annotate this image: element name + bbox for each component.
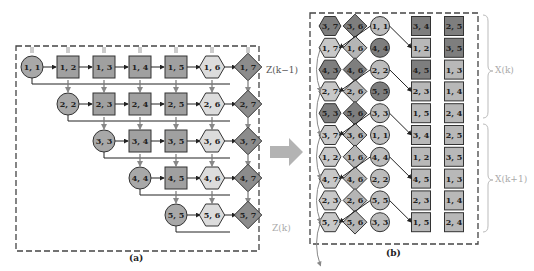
node-label: 1, 4 bbox=[446, 86, 463, 96]
node-label: 3, 6 bbox=[347, 130, 364, 140]
b-node-4-6: 3, 5 bbox=[445, 147, 464, 166]
node-label: 4, 7 bbox=[322, 174, 339, 184]
node-label: 2, 3 bbox=[413, 86, 430, 96]
b-node-2-7: 2, 2 bbox=[371, 169, 390, 188]
node-label: 1, 5 bbox=[413, 108, 430, 118]
b-node-0-1: 1, 7 bbox=[319, 38, 341, 57]
node-label: 3, 5 bbox=[168, 136, 185, 146]
panel-b: 3, 71, 74, 32, 75, 33, 71, 24, 72, 35, 7… bbox=[317, 14, 464, 266]
node-label: 4, 5 bbox=[413, 65, 430, 75]
node-label: 3, 3 bbox=[372, 108, 389, 118]
node-label: 5, 7 bbox=[322, 217, 339, 227]
b-node-1-9: 5, 6 bbox=[343, 210, 367, 234]
node-label: 2, 7 bbox=[322, 86, 339, 96]
b-node-3-6: 1, 2 bbox=[412, 147, 431, 166]
node-label: 2, 2 bbox=[60, 99, 77, 109]
node-4-7: 4, 7 bbox=[234, 164, 262, 192]
node-4-6: 4, 6 bbox=[199, 167, 224, 189]
b-node-0-0: 3, 7 bbox=[319, 17, 341, 36]
node-label: 2, 4 bbox=[132, 99, 149, 109]
b-node-3-4: 1, 5 bbox=[412, 104, 431, 123]
label-x-k: X(k) bbox=[495, 65, 514, 75]
node-label: 2, 6 bbox=[347, 195, 364, 205]
b-node-4-2: 1, 3 bbox=[445, 60, 464, 79]
label-z-k: Z(k) bbox=[272, 223, 291, 233]
node-label: 3, 3 bbox=[96, 136, 113, 146]
b-node-3-0: 3, 4 bbox=[412, 17, 431, 36]
node-label: 1, 1 bbox=[24, 62, 41, 72]
b-node-0-5: 3, 7 bbox=[319, 126, 341, 145]
node-label: 1, 3 bbox=[96, 62, 113, 72]
node-1-7: 1, 7 bbox=[234, 53, 262, 81]
b-node-4-8: 1, 4 bbox=[445, 191, 464, 210]
node-label: 2, 3 bbox=[322, 195, 339, 205]
caption-a: (a) bbox=[129, 253, 143, 263]
b-node-0-2: 4, 3 bbox=[319, 60, 341, 79]
b-node-1-4: 5, 6 bbox=[343, 101, 367, 125]
node-label: 5, 5 bbox=[372, 86, 389, 96]
node-1-4: 1, 4 bbox=[129, 56, 151, 78]
b-node-2-4: 3, 3 bbox=[371, 104, 390, 123]
node-label: 4, 5 bbox=[413, 174, 430, 184]
transform-arrow-icon bbox=[270, 138, 303, 166]
b-node-0-8: 2, 3 bbox=[319, 191, 341, 210]
b-node-3-9: 1, 5 bbox=[412, 213, 431, 232]
label-x-k-plus-1: X(k+1) bbox=[495, 174, 527, 184]
b-node-4-5: 2, 5 bbox=[445, 126, 464, 145]
node-2-3: 2, 3 bbox=[93, 93, 115, 115]
node-label: 3, 4 bbox=[132, 136, 149, 146]
b-node-0-4: 5, 3 bbox=[319, 104, 341, 123]
node-label: 5, 6 bbox=[347, 108, 364, 118]
node-1-3: 1, 3 bbox=[93, 56, 115, 78]
node-label: 1, 2 bbox=[413, 43, 430, 53]
node-label: 2, 6 bbox=[347, 86, 364, 96]
node-3-4: 3, 4 bbox=[129, 130, 151, 152]
b-node-1-5: 3, 6 bbox=[343, 123, 367, 147]
node-label: 1, 4 bbox=[446, 195, 463, 205]
node-label: 4, 3 bbox=[322, 65, 339, 75]
node-1-6: 1, 6 bbox=[199, 56, 224, 78]
node-3-7: 3, 7 bbox=[234, 127, 262, 155]
node-label: 5, 6 bbox=[204, 210, 221, 220]
node-label: 1, 5 bbox=[413, 217, 430, 227]
node-1-2: 1, 2 bbox=[57, 56, 79, 78]
b-node-4-4: 2, 4 bbox=[445, 104, 464, 123]
b-node-1-7: 4, 6 bbox=[343, 167, 367, 191]
node-label: 4, 6 bbox=[347, 65, 364, 75]
node-label: 2, 4 bbox=[446, 217, 463, 227]
node-label: 4, 4 bbox=[372, 43, 389, 53]
node-label: 3, 7 bbox=[322, 21, 339, 31]
b-node-4-3: 1, 4 bbox=[445, 82, 464, 101]
node-label: 1, 6 bbox=[347, 43, 364, 53]
b-node-2-0: 1, 1 bbox=[371, 17, 390, 36]
node-label: 5, 3 bbox=[322, 108, 339, 118]
node-label: 4, 4 bbox=[132, 173, 149, 183]
b-node-4-1: 3, 5 bbox=[445, 38, 464, 57]
b-node-0-6: 1, 2 bbox=[319, 147, 341, 166]
node-label: 1, 1 bbox=[372, 21, 389, 31]
node-label: 1, 3 bbox=[446, 65, 463, 75]
label-z-k-minus-1: Z(k−1) bbox=[266, 65, 298, 75]
node-label: 5, 6 bbox=[347, 217, 364, 227]
node-label: 2, 5 bbox=[446, 130, 463, 140]
node-label: 3, 5 bbox=[446, 43, 463, 53]
b-node-0-9: 5, 7 bbox=[319, 213, 341, 232]
b-node-3-5: 3, 4 bbox=[412, 126, 431, 145]
node-label: 2, 6 bbox=[204, 99, 221, 109]
node-label: 2, 5 bbox=[168, 99, 185, 109]
node-label: 1, 7 bbox=[322, 43, 339, 53]
b-node-3-7: 4, 5 bbox=[412, 169, 431, 188]
node-label: 1, 2 bbox=[322, 152, 339, 162]
b-node-1-3: 2, 6 bbox=[343, 80, 367, 104]
node-label: 1, 7 bbox=[240, 62, 257, 72]
node-label: 4, 5 bbox=[168, 173, 185, 183]
b-node-1-2: 4, 6 bbox=[343, 58, 367, 82]
panel-a: 1, 11, 21, 31, 41, 51, 61, 72, 22, 32, 4… bbox=[21, 47, 262, 232]
b-node-2-6: 4, 4 bbox=[371, 147, 390, 166]
node-label: 2, 7 bbox=[240, 99, 257, 109]
node-label: 5, 5 bbox=[168, 210, 185, 220]
node-2-5: 2, 5 bbox=[165, 93, 187, 115]
node-label: 2, 2 bbox=[372, 65, 389, 75]
b-node-3-8: 2, 3 bbox=[412, 191, 431, 210]
caption-b: (b) bbox=[386, 248, 401, 258]
